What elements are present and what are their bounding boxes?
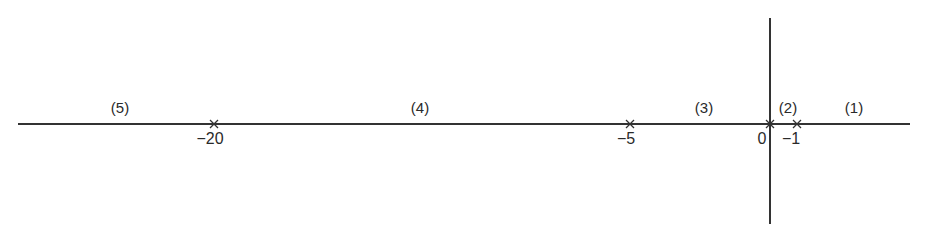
region-label-1: (1) (845, 100, 863, 115)
pole-marker-minus-1 (792, 119, 802, 129)
cross-icon (765, 119, 775, 129)
cross-icon (625, 119, 635, 129)
pole-marker-minus-20 (209, 119, 219, 129)
cross-icon (792, 119, 802, 129)
region-label-3: (3) (695, 100, 713, 115)
real-axis (18, 123, 910, 125)
region-label-2: (2) (779, 100, 797, 115)
tick-label-minus-5: −5 (617, 131, 635, 146)
tick-label-minus-20: −20 (196, 131, 223, 146)
tick-label-minus-1: −1 (782, 131, 800, 146)
pole-marker-minus-5 (625, 119, 635, 129)
region-label-4: (4) (411, 100, 429, 115)
region-label-5: (5) (111, 100, 129, 115)
cross-icon (209, 119, 219, 129)
tick-label-0: 0 (758, 131, 767, 146)
pole-marker-0 (765, 119, 775, 129)
